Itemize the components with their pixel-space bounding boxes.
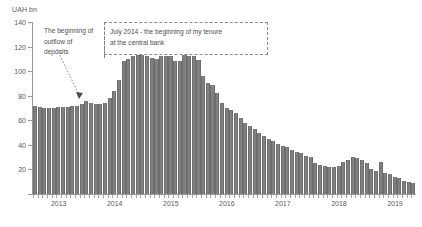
x-tick-mark [365,195,366,198]
x-tick-mark [140,195,141,198]
x-tick-mark [89,195,90,198]
bar [164,56,168,194]
x-tick-mark [66,195,67,198]
bar [295,152,299,194]
x-tick-mark [299,195,300,198]
x-tick-mark [332,195,333,198]
bar [33,106,37,194]
x-tick-mark [295,195,296,198]
x-tick-mark [38,195,39,198]
bar [117,80,121,194]
y-tick-mark [28,47,32,48]
x-tick-label: 2014 [107,200,123,207]
y-tick-label: 120 [2,43,26,50]
x-tick-mark [112,195,113,198]
bar [38,107,42,194]
bar [80,104,84,194]
bar [56,107,60,194]
bar [234,113,238,194]
x-tick-mark [290,195,291,198]
y-tick-mark [28,169,32,170]
x-tick-mark [262,195,263,198]
bar [299,153,303,194]
bar [411,183,415,194]
x-tick-mark [80,195,81,198]
x-tick-mark [56,195,57,198]
bar [225,108,229,194]
bar [112,91,116,194]
bar [103,103,107,194]
x-tick-mark [206,195,207,198]
y-tick-mark [28,22,32,23]
x-tick-mark [309,195,310,198]
y-tick-label: 20 [2,166,26,173]
bar [388,174,392,194]
bar [332,167,336,194]
bar [383,173,387,194]
x-tick-mark [136,195,137,198]
x-tick-mark [383,195,384,198]
bar [327,167,331,194]
x-tick-mark [33,195,34,198]
bar [341,162,345,194]
x-tick-mark [178,195,179,198]
x-tick-label: 2017 [275,200,291,207]
x-tick-label: 2018 [331,200,347,207]
bar [108,98,112,194]
bar [397,178,401,194]
bar [84,101,88,194]
x-tick-mark [70,195,71,198]
bar [210,85,214,194]
x-tick-mark [131,195,132,198]
x-tick-mark [323,195,324,198]
x-tick-mark [351,195,352,198]
bar [393,177,397,194]
x-tick-mark [225,195,226,198]
y-tick-label: 80 [2,92,26,99]
bar [253,129,257,194]
y-tick-label: 140 [2,19,26,26]
x-tick-mark [369,195,370,198]
x-tick-mark [379,195,380,198]
july-2014-event-line [104,22,105,58]
bar [196,60,200,194]
y-tick-label: 100 [2,68,26,75]
bar [178,61,182,194]
bar [318,165,322,194]
x-tick-mark [164,195,165,198]
x-tick-mark [397,195,398,198]
x-tick-mark [276,195,277,198]
bar [159,56,163,194]
x-tick-mark [94,195,95,198]
x-tick-mark [159,195,160,198]
x-tick-mark [304,195,305,198]
bar [304,156,308,194]
y-axis-unit-label: UAH bn [12,6,37,13]
x-tick-label: 2013 [51,200,67,207]
bar [379,162,383,194]
x-tick-mark [407,195,408,198]
bar [323,166,327,194]
bar [220,103,224,194]
x-tick-mark [374,195,375,198]
bar [52,108,56,194]
bar [351,157,355,194]
x-tick-mark [355,195,356,198]
y-tick-mark [28,71,32,72]
tenure-annotation: July 2014 - the beginning of my tenure a… [110,27,222,48]
bar [131,56,135,194]
x-tick-mark [313,195,314,198]
y-tick-label: 60 [2,117,26,124]
x-tick-mark [411,195,412,198]
x-tick-mark [173,195,174,198]
x-tick-mark [182,195,183,198]
x-tick-mark [346,195,347,198]
x-tick-mark [210,195,211,198]
bar [168,56,172,194]
bar [122,61,126,194]
bar [47,108,51,194]
x-tick-mark [253,195,254,198]
bar [75,106,79,194]
bar [94,104,98,194]
x-tick-mark [402,195,403,198]
